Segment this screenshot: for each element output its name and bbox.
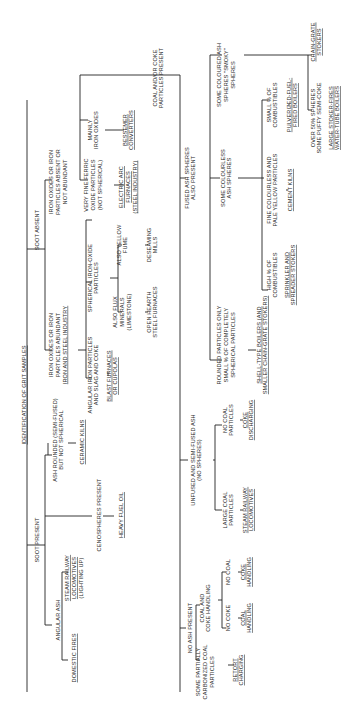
- node-label-line: BUT NOT SPHERICAL: [58, 410, 64, 469]
- node-label-line: ASH SPHERES: [226, 157, 232, 198]
- node-label-line: COAL AND/OR COKE: [152, 49, 158, 106]
- diagram-node-bessemer: BESSEMERCONVERTERS: [122, 110, 135, 150]
- node-label-line: IRON OXIDES: [93, 111, 99, 149]
- node-label-line: FUME: [122, 237, 128, 253]
- node-label-line: BESSEMER: [122, 114, 128, 146]
- node-label-line: PALE YELLOW PARTICLES: [272, 153, 278, 226]
- node-label-line: ALSO YELLOW: [116, 224, 122, 265]
- node-label-line: PARTICLES PRESENT: [158, 47, 164, 108]
- node-label-line: (LIMESTONE): [126, 293, 132, 330]
- node-label-line: COKE HANDLING: [205, 584, 211, 632]
- node-label-line: NO COKE: [225, 605, 231, 632]
- diagram-node-no-coke: NO COKE: [225, 605, 231, 632]
- diagram-node-deseaming: DESEAMINGMILLS: [146, 228, 159, 262]
- diagram-node-open-hearth: OPEN HEARTHSTEEL FURNACES: [146, 286, 159, 337]
- node-label-line: CENOSPHERES PRESENT: [96, 478, 102, 551]
- node-label-line: PARTICLES: [209, 656, 215, 688]
- node-label-line: SOOT PRESENT: [34, 517, 40, 562]
- diagram-node-sprinkler: SPRINKLER ANDSPREADER STOKERS: [284, 245, 297, 306]
- node-label-line: PARTICLES ABSENT OR: [55, 149, 61, 215]
- node-label-line: ANGULAR ASH: [55, 600, 61, 641]
- node-label-line: ALSO FLUX: [112, 296, 118, 328]
- node-label-line: SOME COLOURLESS: [220, 149, 226, 207]
- node-label-line: DISCHARGING: [248, 400, 254, 441]
- diagram-node-coke-discharging: COKEDISCHARGING: [242, 400, 255, 441]
- node-label-line: LARGE COAL: [222, 492, 228, 529]
- diagram-node-soot-absent: SOOT ABSENT: [34, 209, 40, 250]
- node-label-line: SMALLER CHAIN-GRATE STOKERS): [262, 296, 268, 395]
- diagram-node-small-combustibles: SMALL % OFCOMBUSTIBLES: [266, 82, 279, 127]
- node-label-line: LOCOMOTIVES: [71, 557, 77, 599]
- diagram-node-unfused: UNFUSED AND SEMI-FUSED ASH(NO SPHERES): [190, 414, 203, 506]
- diagram-node-angular-ash: ANGULAR ASH: [55, 600, 61, 641]
- node-label-line: SHELL-TYPE BOILERS (AND: [256, 306, 262, 384]
- node-label-line: SPHERES "SMOKY": [223, 48, 229, 102]
- diagram-node-very-fine-ferric: VERY FINE FERRICOXIDE PARTICLES(NOT SPHE…: [83, 158, 102, 211]
- diagram-node-angular-iron: ANGULAR IRON PARTICLESAND SLAG AND COKE: [87, 336, 100, 413]
- node-label-line: ANGULAR IRON PARTICLES: [87, 336, 93, 413]
- node-label-line: MINERALS: [119, 297, 125, 327]
- node-label-line: OXIDE PARTICLES: [90, 159, 96, 210]
- diagram-node-chain-grate: CHAIN-GRATESTOKERS: [310, 22, 323, 61]
- node-label-line: BLAST FURNACES: [106, 350, 112, 402]
- node-label-line: FIRED BOILERS: [292, 83, 298, 127]
- node-label-line: MAINLY: [87, 119, 93, 140]
- node-label-line: LOCOMOTIVES: [248, 489, 254, 531]
- node-label-line: ASH ROUNDED (SEMI-FUSED): [52, 398, 58, 482]
- diagram-node-ash-rounded: ASH ROUNDED (SEMI-FUSED)BUT NOT SPHERICA…: [52, 398, 65, 482]
- diagram-node-ceramic-kilns: CERAMIC KILNS: [79, 419, 85, 464]
- node-label-line: ROUNDED PARTICLES ONLY: [216, 305, 222, 384]
- node-label-line: SPHERICAL IRON-OXIDE: [87, 244, 93, 312]
- diagram-node-high-combustibles: HIGH % OFCOMBUSTIBLES: [266, 252, 279, 297]
- node-label-line: DOMESTIC FIRES: [71, 633, 77, 682]
- node-label-line: CEMENT KILNS: [287, 169, 293, 212]
- node-label-line: NO ASH PRESENT: [187, 602, 193, 653]
- node-label-line: CONVERTERS: [128, 110, 134, 150]
- node-label-line: HIGH % OF: [266, 259, 272, 290]
- node-label-line: MILLS: [152, 237, 158, 254]
- node-label-line: (NO SPHERES): [196, 439, 202, 481]
- diagram-node-pulverized: PULVERIZED-FUEL-FIRED BOILERS: [286, 78, 299, 132]
- node-label-line: COMBUSTIBLES: [272, 82, 278, 127]
- node-label-line: SOME PARTIALLY: [195, 648, 201, 697]
- diagram-node-coal-handling: COALHANDLING: [240, 603, 253, 633]
- node-label-line: (NOT SPHERICAL): [97, 160, 103, 210]
- node-label-line: ALSO PRESENT: [190, 155, 196, 200]
- node-label-line: RETORT: [232, 658, 238, 682]
- node-label-line: ELECTRIC ARC: [118, 166, 124, 208]
- node-label-line: NO COAL: [222, 407, 228, 433]
- node-label-line: PARTICLES: [228, 404, 234, 436]
- node-label-line: SOME PUFFY SEMI-COKE: [316, 82, 322, 153]
- node-label-line: HEAVY FUEL OIL: [118, 492, 124, 538]
- diagram-node-heavy-fuel-oil: HEAVY FUEL OIL: [118, 492, 124, 538]
- diagram-node-electric-arc: ELECTRIC ARCFURNACES(STEEL INDUSTRY): [118, 161, 137, 214]
- diagram-node-retort: RETORTCHARGING: [232, 655, 245, 686]
- diagram-node-fine-colourless: FINE COLOURLESS ANDPALE YELLOW PARTICLES: [266, 153, 279, 226]
- node-label-line: VERY FINE FERRIC: [83, 158, 89, 211]
- node-label-line: STEAM RAILWAY: [64, 555, 70, 601]
- diagram-node-soot-present: SOOT PRESENT: [34, 517, 40, 562]
- diagram-node-no-ash: NO ASH PRESENT: [187, 602, 193, 653]
- diagram-node-cenospheres: CENOSPHERES PRESENT: [96, 478, 102, 551]
- node-label-line: OPEN HEARTH: [146, 291, 152, 332]
- diagram-node-steam-loco-light: STEAM RAILWAYLOCOMOTIVES(LIGHTING UP): [64, 555, 83, 601]
- node-label-line: COAL: [240, 610, 246, 626]
- node-label-line: IDENTIFICATION OF GRIT SAMPLES: [21, 345, 27, 444]
- node-label-line: OR CUPOLAS: [112, 357, 118, 395]
- node-label-line: CERAMIC KILNS: [79, 419, 85, 464]
- diagram-node-large-coal: LARGE COALPARTICLES: [222, 492, 235, 529]
- node-label-line: PARTICLES ABUNDANT: [55, 312, 61, 377]
- diagram-node-no-coal: NO COAL: [225, 559, 231, 585]
- node-label-line: STEAM RAILWAY: [242, 487, 248, 533]
- node-label-line: SOOT ABSENT: [34, 209, 40, 250]
- node-label-line: CHARGING: [238, 655, 244, 686]
- node-label-line: COAL AND: [199, 594, 205, 623]
- node-label-line: STOKERS: [316, 28, 322, 55]
- diagram-node-fused-ash: FUSED ASH SPHERESALSO PRESENT: [184, 147, 197, 209]
- diagram-node-iron-abundant: IRON OXIDES OR IRONPARTICLES ABUNDANTIRO…: [48, 306, 67, 385]
- node-label-line: HANDLING: [246, 603, 252, 633]
- diagram-node-also-flux: ALSO FLUXMINERALS(LIMESTONE): [112, 293, 131, 330]
- node-label-line: SPHERES: [230, 61, 236, 89]
- node-label-line: COKE: [242, 412, 248, 428]
- node-label-line: NOT ABUNDANT: [62, 159, 68, 204]
